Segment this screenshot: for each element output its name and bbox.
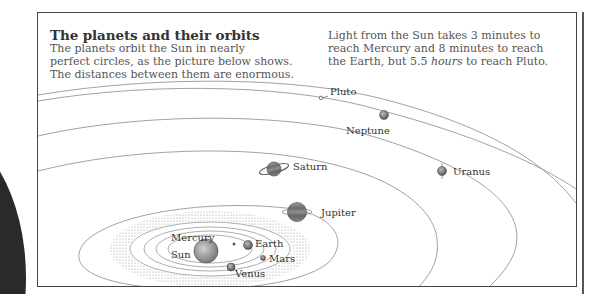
uranus-icon	[438, 163, 447, 179]
jupiter-label: Jupiter	[320, 207, 356, 218]
uranus-label: Uranus	[453, 166, 490, 177]
saturn-label: Saturn	[293, 161, 328, 172]
jupiter-icon	[282, 203, 312, 222]
solar-system-diagram: Sun Mercury Venus Earth Mars Jupiter Sat…	[38, 13, 576, 286]
mars-icon	[261, 256, 266, 261]
pluto-orbit	[38, 81, 576, 203]
pluto-label: Pluto	[330, 86, 356, 97]
pluto-icon	[319, 96, 323, 100]
planets-diagram-panel: The planets and their orbits The planets…	[37, 12, 577, 287]
earth-label: Earth	[255, 238, 284, 249]
mercury-label: Mercury	[171, 232, 215, 243]
venus-label: Venus	[234, 268, 265, 279]
venus-icon	[227, 263, 235, 271]
page-divider-line	[582, 12, 584, 294]
neptune-orbit	[38, 88, 576, 189]
mercury-icon	[233, 243, 236, 246]
earth-icon	[244, 241, 253, 250]
neptune-label: Neptune	[346, 125, 390, 136]
dark-page-edge-shape	[0, 128, 26, 294]
saturn-icon	[258, 158, 291, 179]
sun-label: Sun	[171, 249, 191, 260]
mars-label: Mars	[269, 253, 295, 264]
neptune-icon	[380, 111, 389, 120]
